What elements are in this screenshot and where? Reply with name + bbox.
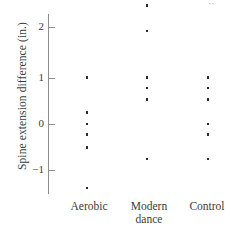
data-point [207, 158, 210, 161]
y-tick-label-neg1-wrap: −1 [26, 164, 44, 175]
y-tick-mark-2 [48, 27, 55, 28]
data-point [86, 146, 89, 149]
data-point [86, 111, 89, 114]
top-edge-artifact: ·· [208, 0, 228, 6]
data-point [207, 98, 210, 101]
category-label-aerobic: Aerobic [58, 200, 120, 213]
y-tick-label-2: 2 [26, 21, 44, 32]
y-axis-line [48, 14, 49, 194]
data-point [146, 30, 149, 33]
data-point [146, 158, 149, 161]
y-tick-mark-1 [48, 78, 55, 79]
data-point [207, 133, 210, 136]
data-point [86, 187, 89, 190]
y-tick-label-1: 1 [26, 72, 44, 83]
category-label-modern-dance: Modern dance [118, 200, 180, 226]
data-point [86, 133, 89, 136]
y-tick-label-1-wrap: 1 [26, 72, 44, 83]
y-tick-label-2-wrap: 2 [26, 21, 44, 32]
data-point [86, 123, 89, 126]
y-tick-label-0-wrap: 0 [26, 118, 44, 129]
dotplot-figure: ·· Spine extension difference (in.) 2 1 … [0, 0, 235, 229]
data-point [146, 76, 149, 79]
data-point [146, 98, 149, 101]
y-tick-mark-0 [48, 124, 55, 125]
data-point [207, 87, 210, 90]
data-point [207, 76, 210, 79]
data-point [146, 4, 149, 7]
y-tick-mark-neg1 [48, 170, 55, 171]
data-point [207, 123, 210, 126]
category-label-control: Control [178, 200, 235, 213]
y-tick-label-0: 0 [26, 118, 44, 129]
data-point [86, 76, 89, 79]
data-point [146, 87, 149, 90]
y-tick-label-neg1: −1 [26, 164, 44, 175]
